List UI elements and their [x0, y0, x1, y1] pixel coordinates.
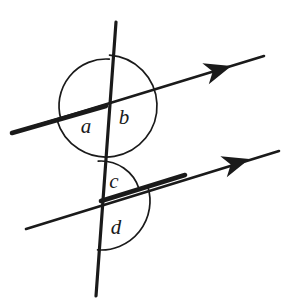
- transversal-line: [96, 22, 116, 296]
- geometry-canvas: a b c d: [0, 0, 294, 305]
- angle-label-a: a: [81, 114, 92, 138]
- angle-label-d: d: [111, 215, 122, 239]
- angle-label-b: b: [119, 105, 130, 129]
- angle-label-c: c: [109, 169, 119, 193]
- geometry-figure: a b c d: [0, 0, 294, 305]
